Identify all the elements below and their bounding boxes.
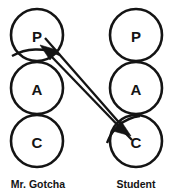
label-right-child: C [131, 134, 142, 151]
column-label-student: Student [116, 178, 156, 190]
column-label-mr-gotcha: Mr. Gotcha [11, 178, 65, 190]
column-left-mr-gotcha: P A C [11, 9, 63, 167]
label-left-parent: P [32, 28, 42, 45]
label-left-adult: A [32, 81, 43, 98]
label-right-adult: A [131, 81, 142, 98]
ego-state-left-child[interactable]: C [11, 115, 63, 167]
label-right-parent: P [131, 28, 141, 45]
ego-state-left-adult[interactable]: A [11, 62, 63, 114]
column-right-student: P A C [110, 9, 162, 167]
ego-state-right-adult[interactable]: A [110, 62, 162, 114]
ego-state-right-parent[interactable]: P [110, 9, 162, 61]
label-left-child: C [32, 134, 43, 151]
diagram-canvas: P A C P A C [0, 0, 179, 196]
pac-transaction-diagram: P A C P A C [0, 0, 179, 196]
